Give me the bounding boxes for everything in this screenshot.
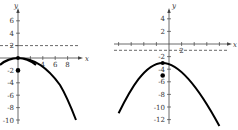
right-graph: y x 2 4 2	[114, 2, 237, 126]
svg-text:4: 4	[10, 30, 15, 38]
svg-text:4: 4	[161, 15, 166, 23]
svg-text:-8: -8	[7, 104, 14, 112]
svg-text:2: 2	[161, 28, 165, 36]
svg-text:-4: -4	[158, 66, 165, 74]
right-y-arrow-icon	[167, 8, 170, 13]
svg-text:8: 8	[65, 61, 69, 69]
left-vertex-point	[16, 56, 20, 60]
right-vertex-point	[161, 61, 165, 65]
right-x-axis-label: x	[233, 41, 237, 49]
svg-text:-2: -2	[158, 53, 165, 61]
svg-text:2: 2	[10, 42, 14, 50]
right-focus-point	[160, 73, 165, 78]
figure: y x 6 4 2 -2 -4 -6 -8 -10	[0, 0, 238, 130]
right-y-axis-label: y	[171, 2, 177, 10]
right-x-tick-label: 2	[179, 47, 183, 55]
svg-text:-2: -2	[7, 67, 14, 75]
svg-text:-8: -8	[158, 91, 165, 99]
svg-text:6: 6	[10, 17, 15, 25]
left-y-tick-labels: 6 4 2 -2 -4 -6 -8 -10	[3, 17, 15, 124]
left-x-arrow-icon	[78, 56, 83, 59]
left-focus-point	[16, 68, 21, 73]
svg-text:-10: -10	[3, 117, 14, 125]
svg-text:-12: -12	[154, 116, 165, 124]
left-x-axis-label: x	[85, 55, 89, 63]
svg-text:-4: -4	[7, 79, 14, 87]
svg-text:-10: -10	[154, 104, 165, 112]
svg-text:-6: -6	[158, 78, 165, 86]
left-graph: y x 6 4 2 -2 -4 -6 -8 -10	[0, 2, 89, 125]
right-y-tick-labels: 4 2 -2 -4 -6 -8 -10 -12	[154, 15, 166, 124]
svg-text:6: 6	[53, 61, 58, 69]
svg-text:-6: -6	[7, 92, 14, 100]
right-x-arrow-icon	[227, 42, 232, 45]
